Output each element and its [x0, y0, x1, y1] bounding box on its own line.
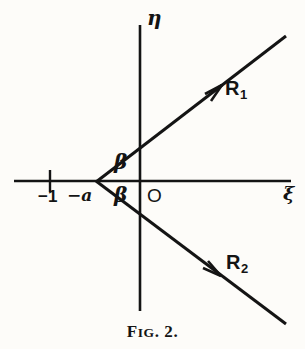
- figure-container: η ξ O −1 −a β β R1 R2 FIG. 2.: [0, 0, 305, 349]
- eta-axis-label: η: [147, 8, 162, 28]
- tick-label-minus-one: −1: [38, 188, 57, 205]
- angle-label-beta-upper: β: [114, 152, 127, 172]
- figure-caption-prefix: F: [127, 322, 138, 341]
- ray-label-r2: R2: [226, 252, 248, 275]
- ray-label-r2-subscript: 2: [241, 261, 248, 276]
- ray-label-r1: R1: [225, 78, 247, 101]
- angle-label-beta-lower: β: [114, 185, 127, 205]
- ray-label-r1-subscript: 1: [240, 87, 247, 102]
- figure-caption-smallcaps: IG: [138, 325, 155, 340]
- diagram-canvas: [0, 0, 305, 349]
- figure-caption-suffix: . 2.: [155, 322, 179, 341]
- figure-caption: FIG. 2.: [0, 322, 305, 342]
- xi-axis-label: ξ: [283, 184, 294, 203]
- vertex-label-minus-a: −a: [67, 187, 92, 204]
- origin-label: O: [147, 186, 162, 205]
- ray-label-r2-base: R: [226, 251, 240, 273]
- ray-label-r1-base: R: [225, 77, 239, 99]
